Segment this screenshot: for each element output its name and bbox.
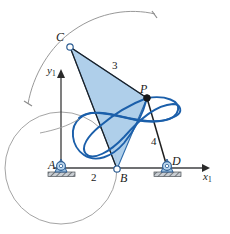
joint-marker-c [67, 44, 73, 50]
label-axis-x1: x1 [203, 171, 212, 182]
label-link-2: 2 [91, 172, 97, 183]
label-point-p: P [140, 83, 147, 95]
axis-y-subscript: 1 [52, 69, 56, 78]
kinematic-figure: A B C D P 2 3 4 x1 y1 [0, 0, 230, 234]
label-link-4: 4 [151, 136, 157, 147]
label-point-c: C [56, 31, 64, 43]
y-axis-arrowhead [57, 69, 65, 78]
label-point-d: D [172, 155, 181, 167]
label-axis-y1: y1 [47, 65, 56, 76]
label-point-b: B [120, 172, 127, 184]
label-point-a: A [48, 159, 55, 171]
figure-canvas [0, 0, 230, 234]
label-link-3: 3 [112, 60, 118, 71]
axis-x-subscript: 1 [208, 175, 212, 184]
arc-tick-end [152, 11, 157, 18]
